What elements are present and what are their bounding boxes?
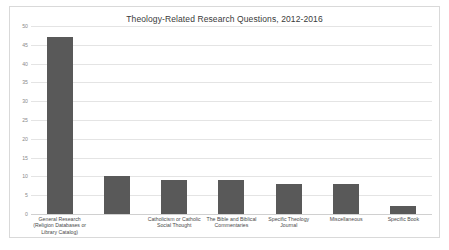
x-axis-tick-label: The Bible and BiblicalCommentaries — [203, 216, 260, 229]
bar-slot — [203, 26, 260, 214]
bar-slot — [146, 26, 203, 214]
x-axis-tick-label: Specific Theology Journal — [260, 216, 317, 229]
x-axis-tick-label: Catholicism or CatholicSocial Thought — [146, 216, 203, 229]
y-axis-tick-label: 5 — [25, 192, 28, 198]
y-axis-tick-label: 25 — [22, 117, 28, 123]
x-axis-tick-label-line: (Religion Databases or — [31, 222, 88, 228]
bar[interactable] — [218, 180, 244, 214]
bar-slot — [31, 26, 88, 214]
bar[interactable] — [276, 184, 302, 214]
x-axis-tick-label: Specific Book — [375, 216, 432, 222]
bar[interactable] — [47, 37, 73, 214]
x-axis-tick-label-line: Library Catalog) — [31, 229, 88, 235]
bar[interactable] — [104, 176, 130, 214]
bar[interactable] — [390, 206, 416, 214]
y-axis-tick-label: 35 — [22, 79, 28, 85]
plot-area: 05101520253035404550 — [31, 26, 432, 214]
x-axis-tick-label: General Research(Religion Databases orLi… — [31, 216, 88, 235]
y-axis-tick-label: 50 — [22, 23, 28, 29]
y-axis-tick-label: 20 — [22, 136, 28, 142]
chart-frame: Theology-Related Research Questions, 201… — [9, 6, 440, 238]
y-axis-tick-label: 15 — [22, 155, 28, 161]
bar-slot — [375, 26, 432, 214]
bar-series — [31, 26, 432, 214]
y-axis-tick-label: 0 — [25, 211, 28, 217]
x-axis-tick-label-line: Miscellaneous — [317, 216, 374, 222]
y-axis-tick-label: 30 — [22, 98, 28, 104]
bar[interactable] — [333, 184, 359, 214]
x-axis-tick-label-line: Specific Theology Journal — [260, 216, 317, 229]
y-axis-tick-label: 40 — [22, 61, 28, 67]
x-axis-tick-labels: General Research(Religion Databases orLi… — [31, 216, 432, 244]
x-axis-tick-label-line: Commentaries — [203, 222, 260, 228]
bar-slot — [88, 26, 145, 214]
y-axis-tick-label: 10 — [22, 173, 28, 179]
gridline — [31, 214, 432, 215]
x-axis-tick-label-line: Social Thought — [146, 222, 203, 228]
x-axis-tick-label: Miscellaneous — [317, 216, 374, 222]
bar[interactable] — [161, 180, 187, 214]
bar-slot — [317, 26, 374, 214]
y-axis-tick-label: 45 — [22, 42, 28, 48]
x-axis-tick-label-line: Specific Book — [375, 216, 432, 222]
bar-slot — [260, 26, 317, 214]
chart-title: Theology-Related Research Questions, 201… — [10, 14, 439, 24]
